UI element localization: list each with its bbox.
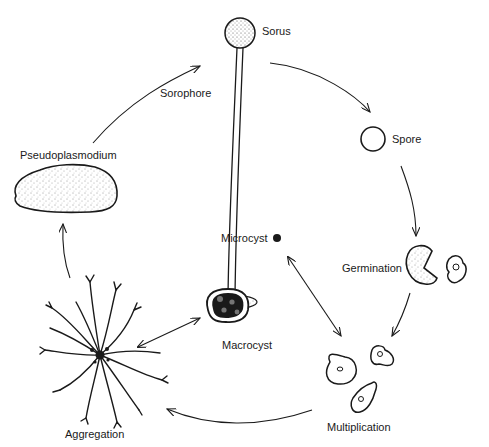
label-sorophore: Sorophore xyxy=(160,88,211,99)
arrow-germination-to-multiplication xyxy=(392,293,410,336)
label-sorus: Sorus xyxy=(262,26,291,37)
pseudoplasmodium-illustration xyxy=(15,165,117,213)
life-cycle-diagram: Sorus Sorophore Spore Pseudoplasmodium M… xyxy=(0,0,489,447)
amoeba-icon xyxy=(351,382,376,412)
arrow-spore-to-germination xyxy=(401,166,416,236)
aggregation-center xyxy=(96,351,105,360)
germinating-spore-icon xyxy=(406,246,437,285)
arrow-aggregation-macrocyst xyxy=(138,318,200,347)
arrow-microcyst-multiplication xyxy=(288,257,341,336)
multiplication-illustration xyxy=(326,346,393,412)
label-germination: Germination xyxy=(342,263,402,274)
microcyst-icon xyxy=(273,234,281,242)
diagram-canvas xyxy=(0,0,489,447)
label-pseudoplasmodium: Pseudoplasmodium xyxy=(20,150,117,161)
label-multiplication: Multiplication xyxy=(327,422,391,433)
label-macrocyst: Macrocyst xyxy=(222,340,272,351)
arrow-multiplication-to-aggregation xyxy=(167,409,312,423)
arrow-sorus-to-spore xyxy=(270,63,370,112)
spore-icon xyxy=(361,127,385,151)
arrow-pseudoplasmodium-to-sorus xyxy=(93,66,200,143)
aggregation-illustration xyxy=(40,275,168,428)
sorus-illustration xyxy=(207,18,257,309)
arrow-aggregation-to-pseudoplasmodium xyxy=(63,224,70,278)
sorus-head xyxy=(225,18,255,48)
label-spore: Spore xyxy=(392,134,421,145)
label-microcyst: Microcyst xyxy=(221,233,267,244)
germination-illustration xyxy=(406,246,466,285)
label-aggregation: Aggregation xyxy=(65,429,124,440)
macrocyst-illustration xyxy=(207,289,248,322)
